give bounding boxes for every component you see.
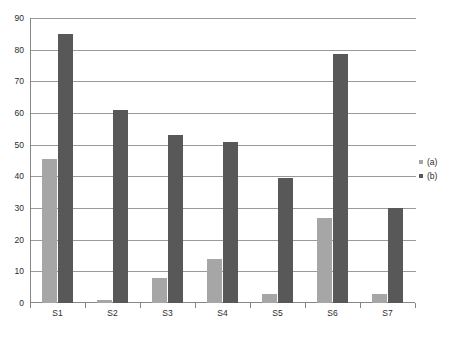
y-axis-tick-label: 20 — [0, 236, 24, 245]
bar-group — [42, 18, 73, 303]
bar-group — [97, 18, 128, 303]
bar — [58, 34, 73, 303]
bar — [223, 142, 238, 304]
y-axis-tick-label: 70 — [0, 77, 24, 86]
y-axis-tick-label: 10 — [0, 267, 24, 276]
legend-label: (b) — [427, 172, 437, 181]
bar — [42, 159, 57, 303]
y-axis-tick-labels: 0102030405060708090 — [0, 0, 26, 338]
y-axis-tick-label: 30 — [0, 204, 24, 213]
bar-group — [207, 18, 238, 303]
bar — [152, 278, 167, 303]
chart-legend: (a)(b) — [419, 155, 451, 183]
x-axis-category-label: S7 — [360, 306, 415, 326]
y-axis-tick-label: 40 — [0, 172, 24, 181]
y-axis-tick-label: 50 — [0, 141, 24, 150]
bar-group — [152, 18, 183, 303]
bar — [372, 294, 387, 303]
x-axis-category-label: S6 — [305, 306, 360, 326]
bar — [278, 178, 293, 303]
x-axis-category-label: S1 — [30, 306, 85, 326]
legend-item: (b) — [419, 169, 451, 183]
y-axis-tick-label: 0 — [0, 299, 24, 308]
bar-group — [317, 18, 348, 303]
bar — [207, 259, 222, 303]
bar — [168, 135, 183, 303]
bar — [97, 300, 112, 303]
x-axis-category-label: S3 — [140, 306, 195, 326]
legend-swatch-icon — [419, 174, 423, 178]
bar-group — [372, 18, 403, 303]
bar-group — [262, 18, 293, 303]
x-axis-category-label: S2 — [85, 306, 140, 326]
x-axis-category-label: S5 — [250, 306, 305, 326]
bar-chart: 0102030405060708090 S1S2S3S4S5S6S7 (a)(b… — [0, 0, 451, 338]
y-axis-tick-label: 60 — [0, 109, 24, 118]
x-axis-tick-mark — [415, 303, 416, 308]
legend-label: (a) — [427, 158, 437, 167]
bar — [333, 54, 348, 303]
y-axis-tick-label: 80 — [0, 46, 24, 55]
legend-swatch-icon — [419, 160, 423, 164]
bar — [113, 110, 128, 303]
y-axis-tick-label: 90 — [0, 14, 24, 23]
x-axis-category-labels: S1S2S3S4S5S6S7 — [30, 306, 415, 326]
x-axis-category-label: S4 — [195, 306, 250, 326]
bar — [262, 294, 277, 304]
bar — [317, 218, 332, 304]
bars-layer — [30, 18, 415, 303]
bar — [388, 208, 403, 303]
legend-item: (a) — [419, 155, 451, 169]
